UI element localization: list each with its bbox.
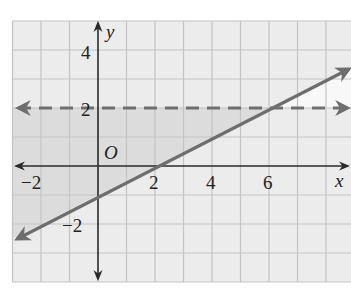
y-tick-label-4: 4 <box>81 42 91 63</box>
coordinate-graph: y x O 4 2 −2 −2 2 4 6 <box>0 0 351 288</box>
x-tick-label-minus-2: −2 <box>21 172 41 193</box>
origin-label: O <box>104 142 118 163</box>
x-axis-label: x <box>334 170 344 191</box>
y-axis-label: y <box>104 21 115 42</box>
x-tick-label-2: 2 <box>149 172 159 193</box>
x-tick-label-4: 4 <box>206 172 216 193</box>
x-tick-label-6: 6 <box>263 172 273 193</box>
y-tick-label-minus-2: −2 <box>62 215 82 236</box>
y-tick-label-2: 2 <box>81 99 91 120</box>
